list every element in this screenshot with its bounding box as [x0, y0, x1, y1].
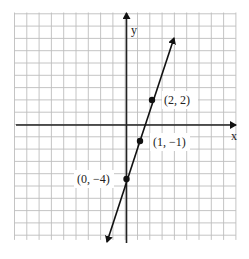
grid-lines	[15, 13, 236, 240]
line-arrow-down	[107, 141, 140, 242]
point-0-neg4	[123, 176, 129, 182]
point-label-2-2: (2, 2)	[164, 93, 190, 107]
point-label-1-neg1: (1, −1)	[153, 135, 186, 149]
point-2-2	[149, 97, 155, 103]
x-axis-label: x	[231, 129, 237, 143]
point-label-0-neg4: (0, −4)	[77, 172, 110, 186]
y-axis-label: y	[131, 23, 137, 37]
coordinate-plane: y x (2, 2) (1, −1) (0, −4)	[0, 0, 249, 259]
point-1-neg1	[137, 138, 143, 144]
